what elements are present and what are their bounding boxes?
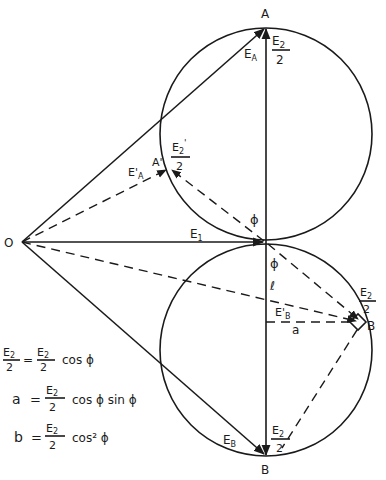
equation-1: E2 2 = E2 2 cos ϕ bbox=[3, 346, 94, 374]
label-e2-half-right: E2 bbox=[360, 286, 372, 301]
label-a-segment: a bbox=[292, 323, 299, 337]
equation-3: b = E2 2 cos² ϕ bbox=[14, 422, 109, 452]
vector-e2-prime-half bbox=[172, 170, 264, 241]
label-o: O bbox=[4, 236, 13, 250]
label-e2-half-top-den: 2 bbox=[276, 53, 284, 67]
vector-eb-prime bbox=[22, 242, 356, 321]
equation-2: a = E2 2 cos ϕ sin ϕ bbox=[12, 384, 137, 414]
svg-text:2: 2 bbox=[49, 439, 56, 452]
svg-text:a: a bbox=[12, 391, 21, 407]
label-e2-half-bottom-den: 2 bbox=[276, 442, 283, 455]
label-eb-prime: E'B bbox=[275, 306, 290, 321]
svg-text:E2: E2 bbox=[3, 346, 15, 360]
svg-text:2: 2 bbox=[6, 361, 13, 374]
label-b-prime: B bbox=[367, 319, 375, 333]
label-b-bottom: B bbox=[261, 463, 269, 477]
vector-ea-prime bbox=[22, 170, 166, 242]
svg-text:cos ϕ sin ϕ: cos ϕ sin ϕ bbox=[72, 393, 137, 407]
label-a: A bbox=[261, 7, 270, 21]
vector-ea bbox=[22, 29, 264, 242]
label-e2-half-bottom: E2 bbox=[272, 424, 284, 439]
svg-text:=: = bbox=[31, 430, 42, 445]
svg-text:E2: E2 bbox=[46, 384, 58, 398]
svg-text:cos ϕ: cos ϕ bbox=[62, 353, 94, 367]
dashed-b-prime-to-b bbox=[282, 330, 357, 448]
label-phi-lower: ϕ bbox=[270, 256, 279, 271]
svg-text:2: 2 bbox=[49, 401, 56, 414]
svg-text:E2: E2 bbox=[37, 346, 49, 360]
label-a-prime: A' bbox=[152, 156, 163, 169]
right-angle-marker bbox=[350, 314, 366, 330]
label-eb: EB bbox=[223, 433, 236, 449]
label-e2-half-right-den: 2 bbox=[363, 303, 370, 316]
label-e2-prime-half: E2' bbox=[172, 138, 187, 156]
vector-eb bbox=[22, 242, 264, 454]
svg-text:cos² ϕ: cos² ϕ bbox=[72, 431, 109, 445]
label-e1: E1 bbox=[190, 227, 203, 243]
label-phi-upper: ϕ bbox=[250, 212, 259, 227]
label-e2-half-top: E2 bbox=[272, 34, 285, 50]
phasor-circle-diagram: A B O B A' EA E2 2 E'A E2' 2 E1 ϕ ϕ ℓ E'… bbox=[0, 0, 386, 480]
svg-text:E2: E2 bbox=[46, 422, 58, 436]
label-ea: EA bbox=[244, 47, 258, 63]
svg-text:=: = bbox=[30, 392, 41, 407]
svg-text:2: 2 bbox=[40, 361, 47, 374]
label-e2-prime-half-den: 2 bbox=[176, 160, 183, 173]
svg-text:=: = bbox=[23, 353, 33, 367]
svg-text:b: b bbox=[14, 429, 23, 445]
label-ea-prime: E'A bbox=[128, 166, 144, 181]
label-l: ℓ bbox=[269, 279, 275, 293]
